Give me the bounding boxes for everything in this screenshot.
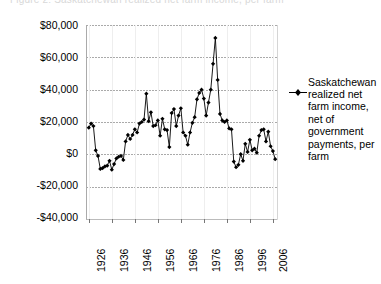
data-point-marker: [176, 113, 180, 117]
data-point-marker: [218, 112, 222, 116]
data-point-marker: [241, 159, 245, 163]
data-point-marker: [107, 159, 111, 163]
data-point-marker: [121, 158, 125, 162]
data-point-marker: [174, 124, 178, 128]
data-point-marker: [172, 107, 176, 111]
data-point-marker: [128, 137, 132, 141]
data-point-marker: [179, 106, 183, 110]
data-point-marker: [209, 88, 213, 92]
data-point-marker: [211, 62, 215, 66]
data-point-marker: [245, 150, 249, 154]
data-point-marker: [195, 97, 199, 101]
data-point-marker: [170, 111, 174, 115]
data-point-marker: [248, 138, 252, 142]
data-point-marker: [202, 96, 206, 100]
data-point-marker: [232, 160, 236, 164]
data-point-marker: [110, 168, 114, 172]
data-point-marker: [213, 36, 217, 40]
data-point-marker: [149, 110, 153, 114]
data-point-marker: [124, 139, 128, 143]
data-point-marker: [271, 149, 275, 153]
data-point-marker: [126, 133, 130, 137]
data-point-marker: [193, 115, 197, 119]
data-point-marker: [87, 126, 91, 130]
data-point-marker: [216, 78, 220, 82]
data-point-marker: [264, 139, 268, 143]
legend-label: Saskatchewan realized net farm income, n…: [308, 76, 381, 163]
data-point-marker: [94, 148, 98, 152]
data-point-marker: [239, 152, 243, 156]
data-point-marker: [144, 92, 148, 96]
data-point-marker: [243, 142, 247, 146]
data-point-marker: [188, 130, 192, 134]
data-point-marker: [268, 144, 272, 148]
chart-figure: Figure 2: Saskatchewan realized net farm…: [0, 0, 381, 284]
data-point-marker: [266, 130, 270, 134]
data-point-marker: [257, 134, 261, 138]
data-point-marker: [130, 133, 134, 137]
data-point-marker: [206, 101, 210, 105]
data-point-marker: [167, 145, 171, 149]
data-point-marker: [190, 121, 194, 125]
legend: Saskatchewan realized net farm income, n…: [286, 88, 381, 162]
data-point-marker: [186, 143, 190, 147]
data-point-marker: [156, 118, 160, 122]
data-point-marker: [160, 117, 164, 121]
